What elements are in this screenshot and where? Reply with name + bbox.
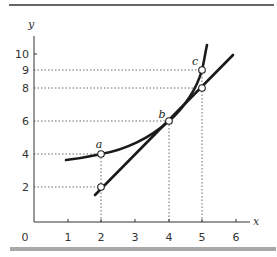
data-points — [98, 67, 206, 191]
point-c — [199, 67, 206, 74]
y-tick-label: 2 — [22, 181, 29, 194]
x-tick-label: 6 — [233, 231, 240, 244]
y-tick-label: 10 — [15, 48, 29, 61]
bottom-rule — [10, 247, 276, 251]
y-tick-label: 6 — [22, 115, 29, 128]
point-line-at-5 — [199, 85, 206, 92]
y-axis-title: y — [27, 18, 35, 31]
convex-curve — [66, 45, 207, 160]
y-tick-label: 8 — [22, 82, 29, 95]
point-b — [166, 118, 173, 125]
label-b: b — [158, 108, 165, 121]
x-axis-title: x — [253, 215, 260, 228]
point-line-at-2 — [98, 184, 105, 191]
x-tick-label: 4 — [166, 231, 173, 244]
x-tick-label: 3 — [132, 231, 139, 244]
x-tick-label: 2 — [98, 231, 105, 244]
chart-figure: 0 1 2 3 4 5 6 2 4 6 8 9 10 y x a b c — [0, 0, 277, 257]
label-c: c — [192, 55, 198, 68]
y-tick-label: 4 — [22, 148, 29, 161]
axes — [34, 36, 250, 222]
x-tick-label: 1 — [65, 231, 72, 244]
x-tick-label: 5 — [199, 231, 206, 244]
point-a — [98, 151, 105, 158]
origin-label: 0 — [22, 231, 29, 244]
y-tick-label: 9 — [22, 64, 29, 77]
guide-lines — [34, 70, 202, 222]
label-a: a — [96, 138, 103, 151]
